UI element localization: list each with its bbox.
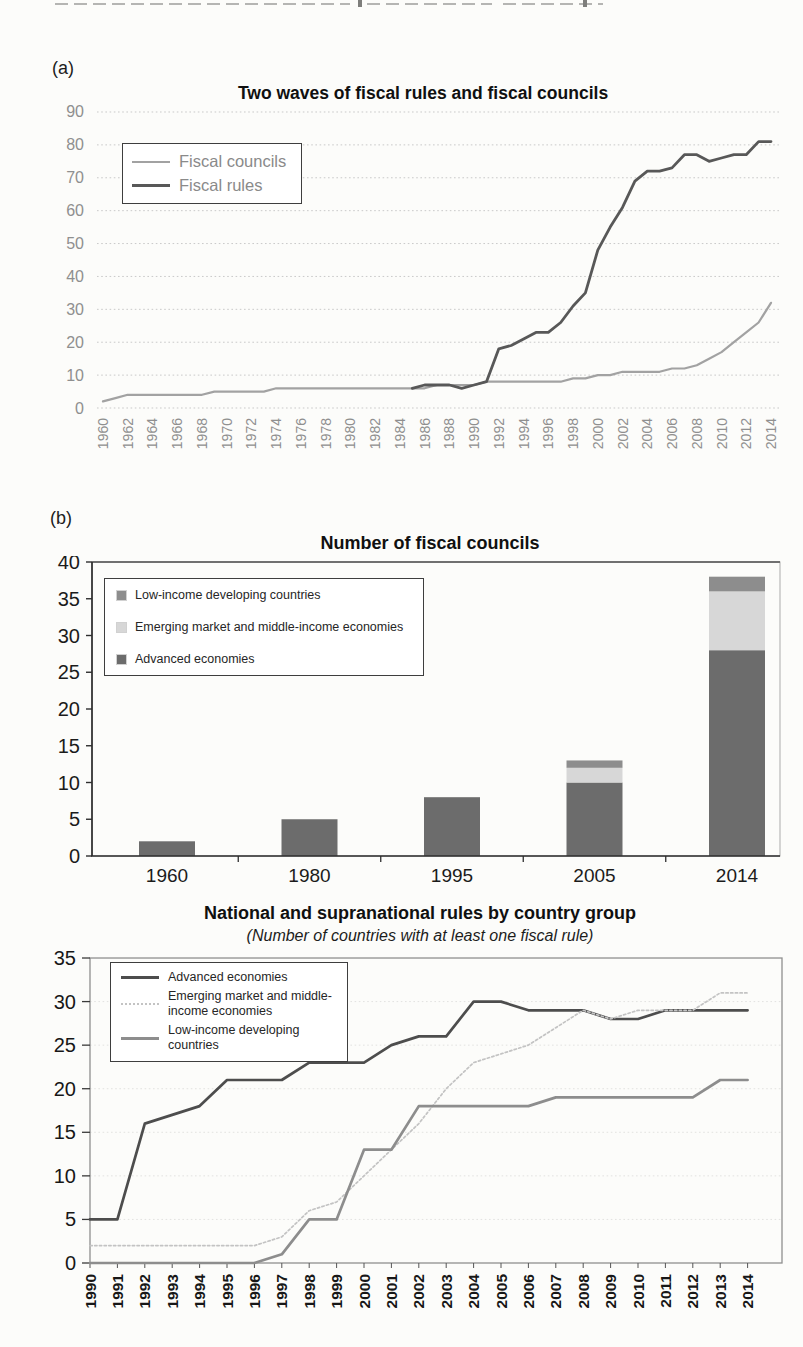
tick-label: 2014 — [739, 1274, 756, 1309]
legend-label-emerging: Emerging market and middle-income econom… — [135, 620, 403, 634]
tick-label: 2008 — [689, 418, 705, 449]
page-top-scan-artifact — [55, 0, 605, 7]
tick-label: 1994 — [516, 418, 532, 449]
tick-label: 1984 — [392, 418, 408, 449]
tick-label: 1964 — [144, 418, 160, 449]
tick-label: 2004 — [465, 1274, 482, 1309]
tick-label: 1990 — [466, 418, 482, 449]
tick-label: 2005 — [573, 865, 615, 886]
tick-label: 1966 — [169, 418, 185, 449]
tick-label: 1974 — [268, 418, 284, 449]
legend-item-fiscal-councils: Fiscal councils — [132, 152, 292, 171]
tick-label: 1998 — [565, 418, 581, 449]
tick-label: 35 — [54, 948, 76, 969]
tick-label: 1982 — [367, 418, 383, 449]
tick-label: 1997 — [273, 1274, 290, 1308]
low-income-developing-countries-bar-2005 — [567, 760, 623, 767]
tick-label: 0 — [65, 1252, 76, 1274]
fiscal-rules-line-sample — [132, 184, 170, 187]
low-income-swatch — [117, 591, 126, 600]
low-income-developing-countries-bar-2014 — [709, 577, 765, 592]
legend-label-advanced: Advanced economies — [168, 970, 288, 986]
tick-label: 35 — [58, 588, 80, 610]
advanced-economies-bar-1960 — [139, 841, 195, 856]
tick-label: 15 — [54, 1121, 76, 1143]
legend-item-fiscal-rules: Fiscal rules — [132, 176, 292, 195]
tick-label: 1972 — [243, 418, 259, 449]
tick-label: 2003 — [438, 1274, 455, 1309]
tick-label: 1970 — [219, 418, 235, 449]
tick-label: 20 — [58, 698, 80, 720]
legend-label-fiscal-rules: Fiscal rules — [179, 176, 262, 195]
legend-label-low-income: Low-income developing countries — [168, 1023, 337, 1054]
tick-label: 1978 — [318, 418, 334, 449]
tick-label: 30 — [58, 625, 80, 647]
tick-label: 2009 — [602, 1274, 619, 1309]
legend-item-low-income: Low-income developing countries — [121, 1023, 337, 1054]
tick-label: 2012 — [738, 418, 754, 449]
advanced-economies-bar-1980 — [282, 819, 338, 856]
tick-label: 2005 — [493, 1274, 510, 1309]
tick-label: 1992 — [136, 1274, 153, 1308]
advanced-economies-bar-2014 — [709, 650, 765, 856]
legend-item-low-income: Low-income developing countries — [117, 588, 411, 602]
low-income-line-sample — [121, 1037, 159, 1040]
tick-label: 15 — [58, 735, 80, 757]
tick-label: 40 — [58, 556, 80, 573]
tick-label: 40 — [66, 268, 84, 285]
tick-label: 80 — [66, 136, 84, 153]
tick-label: 1990 — [82, 1274, 99, 1308]
legend-label-advanced: Advanced economies — [135, 652, 255, 666]
tick-label: 1999 — [328, 1274, 345, 1309]
legend-item-emerging: Emerging market and middle-income econom… — [121, 989, 337, 1020]
tick-label: 2014 — [716, 865, 759, 886]
tick-label: 2006 — [664, 418, 680, 449]
tick-label: 1960 — [95, 418, 111, 449]
tick-label: 10 — [58, 772, 80, 794]
chart-c-title: National and supranational rules by coun… — [100, 903, 740, 924]
tick-label: 2013 — [712, 1274, 729, 1309]
tick-label: 25 — [54, 1034, 76, 1056]
tick-label: 1968 — [194, 418, 210, 449]
tick-label: 1991 — [109, 1274, 126, 1309]
tick-label: 20 — [66, 334, 84, 351]
tick-label: 30 — [54, 991, 76, 1013]
fiscal-councils-line-sample — [132, 161, 170, 163]
tick-label: 60 — [66, 202, 84, 219]
tick-label: 20 — [54, 1078, 76, 1100]
legend-item-advanced: Advanced economies — [117, 652, 411, 666]
tick-label: 2000 — [356, 1274, 373, 1308]
advanced-swatch — [117, 655, 126, 664]
tick-label: 1960 — [146, 865, 188, 886]
tick-label: 1962 — [120, 418, 136, 449]
tick-label: 2000 — [590, 418, 606, 449]
tick-label: 1988 — [441, 418, 457, 449]
tick-label: 1998 — [301, 1274, 318, 1309]
emerging-line-sample — [121, 1003, 159, 1005]
tick-label: 1993 — [164, 1274, 181, 1309]
tick-label: 2001 — [383, 1274, 400, 1309]
fiscal-rules-line — [412, 142, 771, 389]
page-root: (a) Two waves of fiscal rules and fiscal… — [0, 0, 803, 1347]
tick-label: 2006 — [520, 1274, 537, 1309]
tick-label: 10 — [54, 1165, 76, 1187]
panel-b-tag: (b) — [50, 508, 72, 529]
tick-label: 1980 — [288, 865, 330, 886]
legend-label-fiscal-councils: Fiscal councils — [179, 152, 286, 171]
tick-label: 1996 — [540, 418, 556, 449]
tick-label: 2008 — [575, 1274, 592, 1309]
legend-label-low-income: Low-income developing countries — [135, 588, 321, 602]
tick-label: 2012 — [684, 1274, 701, 1308]
tick-label: 2014 — [763, 418, 779, 449]
fiscal-councils-line — [103, 303, 771, 402]
tick-label: 0 — [69, 845, 80, 867]
tick-label: 50 — [66, 235, 84, 252]
advanced-economies-bar-2005 — [567, 783, 623, 857]
chart-b-legend: Low-income developing countries Emerging… — [104, 578, 424, 676]
legend-item-advanced: Advanced economies — [121, 970, 337, 986]
tick-label: 70 — [66, 169, 84, 186]
chart-b-title: Number of fiscal councils — [130, 533, 730, 554]
tick-label: 2007 — [547, 1274, 564, 1308]
tick-label: 5 — [65, 1208, 76, 1230]
tick-label: 25 — [58, 661, 80, 683]
